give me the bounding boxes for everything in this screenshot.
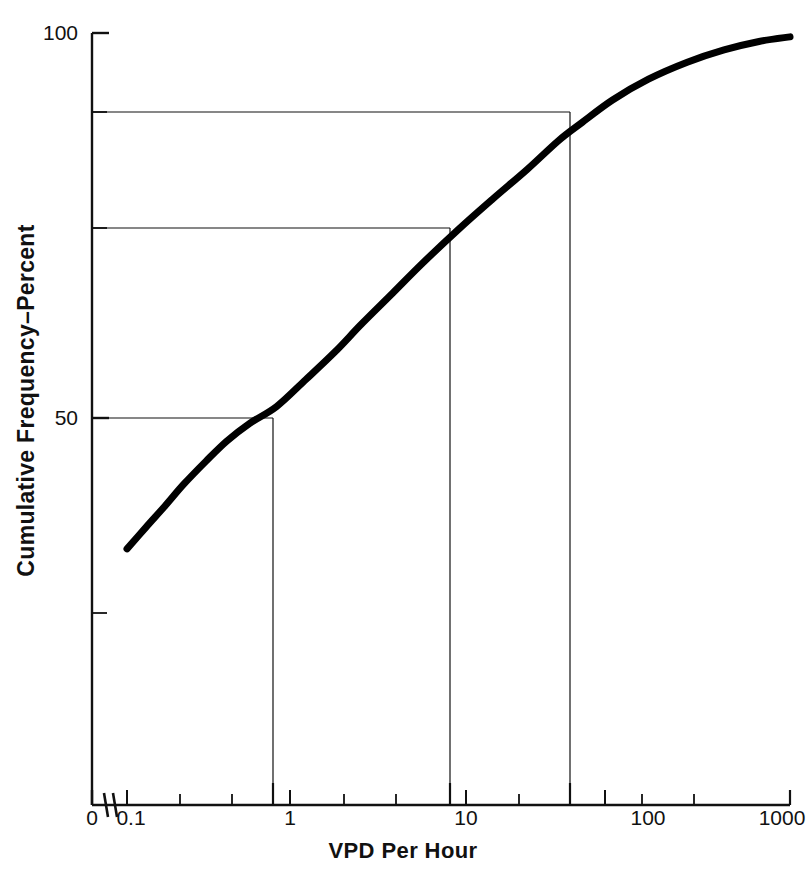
axis-lines (92, 33, 790, 805)
y-axis-ticks (92, 33, 109, 613)
x-axis-title: VPD Per Hour (0, 838, 806, 864)
data-series-line (127, 37, 790, 549)
reference-lines (92, 112, 570, 805)
x-tick-label-10: 10 (454, 806, 477, 830)
chart-plot-area (0, 0, 806, 878)
reference-line-median (92, 418, 273, 805)
reference-line-upper-quartile (92, 228, 450, 805)
y-tick-label-100: 100 (26, 21, 78, 45)
y-tick-label-50: 50 (26, 406, 78, 430)
x-tick-label-1: 1 (284, 806, 296, 830)
reference-line-ninetieth-percentile (92, 112, 570, 805)
x-tick-label-0p1: 0.1 (116, 806, 145, 830)
x-axis-ticks (92, 783, 790, 805)
x-tick-label-100: 100 (630, 806, 665, 830)
x-tick-label-0: 0 (86, 806, 98, 830)
chart-figure: Cumulative Frequency–Percent VPD Per Hou… (0, 0, 806, 878)
x-tick-label-1000: 1000 (759, 806, 806, 830)
